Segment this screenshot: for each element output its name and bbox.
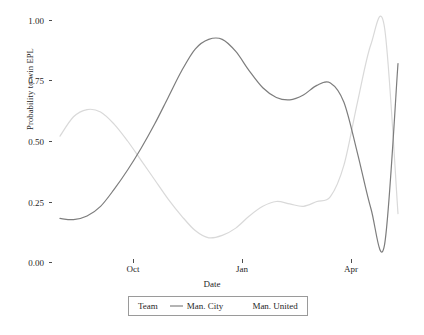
legend-title: Team <box>138 301 158 311</box>
x-tick-mark-apr <box>351 259 352 263</box>
x-tick-mark-jan <box>242 259 243 263</box>
chart-legend: Team Man. City Man. United <box>128 296 308 316</box>
legend-line-key-icon <box>170 305 183 306</box>
x-tick-label-jan: Jan <box>212 265 272 274</box>
legend-item-man-united[interactable]: Man. United <box>235 301 298 311</box>
legend-label-man-united: Man. United <box>252 301 298 311</box>
chart-container: Probability to win EPL 1.00 0.75 0.50 0.… <box>0 0 424 335</box>
x-tick-label-apr: Apr <box>321 265 381 274</box>
x-axis-title: Date <box>0 279 424 289</box>
series-line-man-city <box>60 38 398 252</box>
legend-line-key-icon <box>235 305 248 306</box>
legend-item-man-city[interactable]: Man. City <box>170 301 224 311</box>
series-line-man-united <box>60 16 398 238</box>
x-tick-label-oct: Oct <box>103 265 163 274</box>
x-tick-mark-oct <box>133 259 134 263</box>
legend-label-man-city: Man. City <box>187 301 224 311</box>
